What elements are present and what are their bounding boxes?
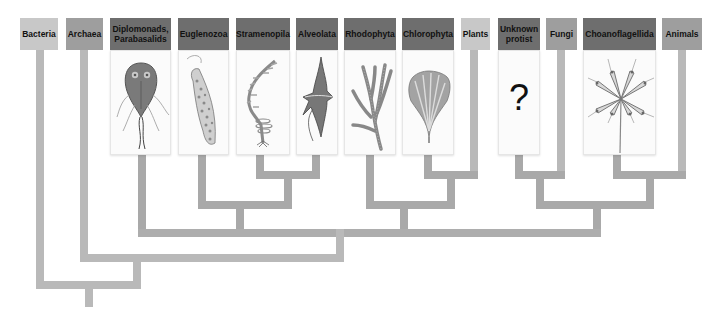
label-text: Chlorophyta — [403, 29, 453, 39]
label-text: Plants — [463, 29, 489, 39]
giardia-illustration-icon — [111, 51, 172, 156]
label-text-line1: Diplomonads, — [112, 24, 168, 34]
card-rhodophyta — [344, 50, 396, 155]
label-alveolata: Alveolata — [296, 18, 338, 50]
branch-eugleno-join — [198, 201, 292, 209]
label-text: Choanoflagellida — [585, 29, 653, 39]
label-animals: Animals — [662, 18, 702, 50]
label-text: Alveolata — [298, 29, 336, 39]
branch-root-stem — [85, 281, 93, 307]
card-euglenozoa — [178, 50, 229, 155]
euglena-illustration-icon — [179, 51, 230, 156]
red-alga-illustration-icon — [345, 51, 397, 156]
choanoflagellate-illustration-icon — [584, 51, 657, 156]
branch-archaea-eukaryote-join — [80, 254, 344, 262]
card-choanoflagellida — [583, 50, 656, 155]
label-text: Stramenopila — [236, 29, 290, 39]
label-archaea: Archaea — [66, 18, 103, 50]
label-text-line2: protist — [506, 34, 532, 44]
card-stramenopila — [236, 50, 290, 155]
branch-plants — [470, 50, 478, 179]
label-text: Fungi — [550, 29, 573, 39]
question-mark-icon: ? — [499, 77, 539, 119]
label-rhodophyta: Rhodophyta — [344, 18, 396, 50]
branch-fungi — [557, 50, 565, 179]
label-euglenozoa: Euglenozoa — [178, 18, 229, 50]
label-text-line2: Parabasalids — [114, 34, 166, 44]
card-diplomonads — [110, 50, 171, 155]
dinoflagellate-illustration-icon — [297, 51, 339, 156]
label-text: Bacteria — [22, 29, 56, 39]
label-fungi: Fungi — [546, 18, 577, 50]
kelp-illustration-icon — [237, 51, 291, 156]
branch-bacteria — [36, 50, 44, 289]
green-alga-illustration-icon — [403, 51, 455, 156]
label-text: Rhodophyta — [345, 29, 395, 39]
branch-eukaryote-join — [138, 229, 601, 237]
card-unknown-protist: ? — [498, 50, 540, 155]
card-alveolata — [296, 50, 338, 155]
label-bacteria: Bacteria — [20, 18, 58, 50]
card-chlorophyta — [402, 50, 454, 155]
label-diplomonads-parabasalids: Diplomonads, Parabasalids — [110, 18, 171, 50]
label-text: Archaea — [68, 29, 102, 39]
label-text-line1: Unknown — [500, 24, 538, 34]
label-stramenopila: Stramenopila — [236, 18, 290, 50]
branch-animals — [678, 50, 686, 179]
branch-archaea — [80, 50, 88, 262]
label-unknown-protist: Unknown protist — [498, 18, 540, 50]
label-chlorophyta: Chlorophyta — [402, 18, 454, 50]
label-text: Euglenozoa — [180, 29, 228, 39]
branch-diplomonads — [138, 155, 146, 237]
label-choanoflagellida: Choanoflagellida — [583, 18, 656, 50]
phylogenetic-tree-diagram: ? Bacteri — [0, 0, 727, 318]
branch-rhodo-join — [366, 201, 455, 209]
label-plants: Plants — [461, 18, 490, 50]
label-text: Animals — [665, 29, 698, 39]
